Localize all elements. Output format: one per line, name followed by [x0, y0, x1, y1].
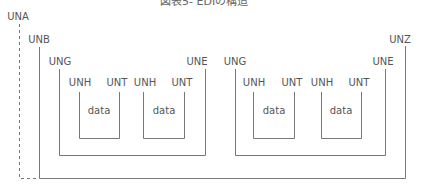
group-2-ung-label: UNG: [224, 57, 247, 67]
group-2-message-1-unh-label: UNH: [243, 78, 265, 88]
group-2-message-2-data-label: data: [330, 106, 353, 116]
group-1-message-1-unt-label: UNT: [107, 78, 128, 88]
group-1-message-1-unh-label: UNH: [69, 78, 91, 88]
group-2-une-label: UNE: [372, 57, 393, 67]
group-1-message-1-data-label: data: [88, 106, 111, 116]
edi-structure-diagram: [0, 0, 424, 187]
group-2-message-2-unt-label: UNT: [349, 78, 370, 88]
unb-label: UNB: [28, 35, 50, 45]
group-2-message-2-unh-label: UNH: [311, 78, 333, 88]
group-1-message-2-unh-label: UNH: [134, 78, 156, 88]
group-1-message-2-data-label: data: [153, 106, 176, 116]
una-label: UNA: [7, 12, 29, 22]
group-2-message-1-unt-label: UNT: [282, 78, 303, 88]
group-1-message-2-unt-label: UNT: [172, 78, 193, 88]
group-2-message-1-data-label: data: [263, 106, 286, 116]
group-1-une-label: UNE: [186, 57, 207, 67]
una-service-string-advice-line: [20, 24, 40, 179]
unz-label: UNZ: [389, 35, 411, 45]
group-1-ung-label: UNG: [49, 57, 72, 67]
